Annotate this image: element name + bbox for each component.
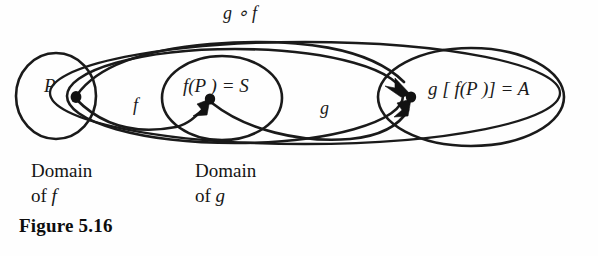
- caption-domain-of-f-symbol: f: [52, 185, 57, 206]
- caption-domain-of-f: Domain of f: [31, 158, 92, 208]
- point-P-dot: [71, 91, 82, 103]
- label-composite-map: g ∘ f: [223, 4, 257, 22]
- point-A-dot: [406, 91, 416, 102]
- label-point-P: P: [44, 76, 56, 95]
- caption-domain-of-g-prefix: of: [195, 185, 216, 206]
- domain-of-f-circle: [16, 53, 96, 139]
- figure-container: .stroke-set { fill: none; stroke: #1a1a1…: [0, 0, 598, 256]
- caption-domain-of-f-line2: of f: [31, 183, 92, 208]
- image-set-ellipse: [162, 56, 282, 140]
- caption-domain-of-g: Domain of g: [195, 158, 256, 208]
- caption-domain-of-g-line1: Domain: [195, 158, 256, 183]
- caption-domain-of-f-prefix: of: [31, 185, 52, 206]
- caption-domain-of-f-line1: Domain: [31, 158, 92, 183]
- caption-domain-of-g-line2: of g: [195, 183, 256, 208]
- label-image-point: f(P ) = S: [183, 76, 249, 95]
- caption-domain-of-g-symbol: g: [216, 185, 226, 206]
- label-map-g: g: [320, 99, 329, 117]
- label-map-f: f: [133, 96, 138, 114]
- label-composite-image: g [ f(P )] = A: [428, 79, 529, 98]
- figure-caption: Figure 5.16: [19, 215, 113, 237]
